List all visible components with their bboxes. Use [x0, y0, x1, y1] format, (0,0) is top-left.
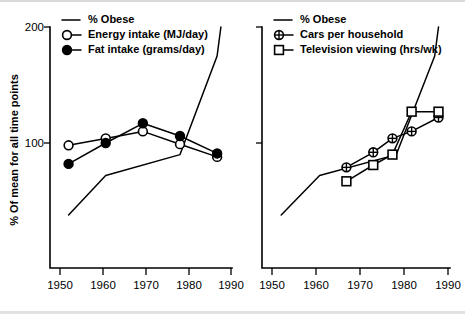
legend-left-label-1: Energy intake (MJ/day): [88, 28, 208, 40]
left-xticks: [60, 268, 231, 275]
dual-line-chart: % Of mean for all time points 200 100 19…: [0, 0, 465, 314]
right-axis-frame: [262, 27, 450, 268]
panel-left: 1950 1960 1970 1980 1990 % Obese Energy …: [44, 13, 244, 291]
series-line-right-2: [346, 112, 438, 182]
data-point-left-2-2: [138, 119, 147, 128]
legend-left-label-0: % Obese: [88, 13, 134, 25]
data-point-left-1-0: [64, 141, 73, 150]
right-xlabel-1960: 1960: [303, 279, 329, 291]
legend-right-label-0: % Obese: [300, 13, 346, 25]
legend-left-label-2: Fat intake (grams/day): [88, 43, 205, 55]
left-series-group: [64, 27, 221, 215]
legend-right-label-2: Television viewing (hrs/wk): [300, 43, 442, 55]
right-series-group: [281, 27, 443, 215]
right-xlabel-1970: 1970: [347, 279, 373, 291]
series-line-right-0: [281, 27, 438, 215]
open-circle-icon: [63, 31, 72, 40]
data-point-left-2-4: [213, 149, 222, 158]
right-xticks: [272, 268, 448, 275]
left-xlabel-1970: 1970: [133, 279, 159, 291]
data-point-right-2-0: [342, 177, 351, 186]
left-xlabel-1980: 1980: [176, 279, 202, 291]
legend-left: % Obese Energy intake (MJ/day) Fat intak…: [62, 13, 208, 55]
left-xlabel-1950: 1950: [47, 279, 73, 291]
right-xlabel-1990: 1990: [435, 279, 461, 291]
panel-right: 1950 1960 1970 1980 1990 % Obese Cars pe…: [256, 13, 461, 291]
y-axis-title: % Of mean for all time points: [8, 74, 20, 226]
right-xlabel-1950: 1950: [259, 279, 285, 291]
top-rule: [0, 0, 465, 2]
data-point-left-2-1: [101, 139, 110, 148]
data-point-right-2-2: [388, 150, 397, 159]
left-xlabel-1960: 1960: [90, 279, 116, 291]
data-point-right-2-4: [434, 107, 443, 116]
open-square-icon: [275, 46, 284, 55]
data-point-left-2-3: [176, 132, 185, 141]
data-point-left-2-0: [64, 159, 73, 168]
legend-right: % Obese Cars per household Television vi…: [274, 13, 442, 55]
filled-circle-icon: [63, 46, 72, 55]
y-tick-label-100: 100: [25, 137, 44, 149]
data-point-right-2-3: [407, 107, 416, 116]
y-tick-label-200: 200: [25, 21, 44, 33]
figure-root: % Of mean for all time points 200 100 19…: [0, 0, 465, 314]
data-point-right-2-1: [369, 161, 378, 170]
left-xlabel-1990: 1990: [218, 279, 244, 291]
legend-right-label-1: Cars per household: [300, 28, 403, 40]
right-xlabel-1980: 1980: [391, 279, 417, 291]
